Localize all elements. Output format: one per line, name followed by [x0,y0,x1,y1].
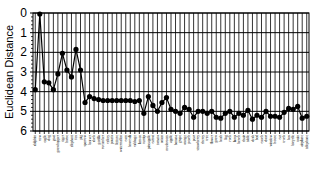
data-point [196,109,201,114]
data-point [205,111,210,116]
x-tick-label: pig [79,135,83,140]
x-tick-label: mushroom [165,135,169,151]
data-point [114,98,119,103]
x-tick-label: carrot [151,135,155,143]
x-tick-label: sparrow [83,135,87,147]
x-tick-label: celery [106,135,110,144]
x-tick-label: broccoli [128,135,132,147]
x-tick-label: bed [255,135,259,140]
x-tick-label: door [264,134,268,141]
x-tick-label: banana [174,135,178,146]
data-point [173,109,178,114]
x-tick-label: pineapple [147,135,151,149]
x-tick-label: couch [260,135,264,144]
data-point [46,80,51,85]
data-point [33,87,38,92]
x-tick-label: house [273,135,277,144]
x-tick-label: lamp [233,135,237,142]
data-point [241,113,246,118]
x-tick-label: cherry [201,135,205,144]
data-point [82,100,87,105]
data-point [132,99,137,104]
data-point [263,109,268,114]
data-point [214,115,219,120]
x-tick-label: onion [160,135,164,143]
x-tick-label: cow [38,135,42,141]
x-tick-label: horse [65,135,69,143]
data-point [218,116,223,121]
x-tick-label: window [269,135,273,147]
x-tick-label: beaver [88,134,92,144]
data-point [91,96,96,101]
data-point [73,47,78,52]
data-point [286,106,291,111]
data-point [119,98,124,103]
x-tick-label: strawberry [196,135,200,151]
data-point [150,103,155,108]
y-tick-label: 4 [20,85,27,99]
data-point [64,67,69,72]
x-tick-label: potato [110,135,114,144]
y-tick-label: 1 [20,26,27,40]
data-point [254,113,259,118]
data-point [110,98,115,103]
x-tick-label: pear [192,134,196,141]
x-tick-label: desk [251,135,255,142]
x-tick-label: telephone [305,135,309,149]
data-point [101,98,106,103]
data-point [268,114,273,119]
x-tick-label: grasshopper [56,134,60,152]
x-tick-label: train [296,135,300,142]
data-point [164,95,169,100]
x-tick-label: gorilla [97,135,101,145]
data-point [78,67,83,72]
x-tick-label: dolphin [33,135,37,146]
data-point [155,109,160,114]
x-tick-label: log [224,135,228,140]
x-tick-label: flower [210,134,214,144]
data-point [146,94,151,99]
data-point [42,79,47,84]
x-tick-label: airplane [300,135,304,147]
x-tick-label: apple [169,135,173,143]
x-tick-label: orange [183,135,187,145]
x-tick-label: corn [124,135,128,142]
data-point [227,109,232,114]
data-point [87,94,92,99]
x-tick-label: grass [214,134,218,142]
data-point [259,115,264,120]
x-tick-label: goat [52,135,56,141]
x-tick-label: bush [219,135,223,142]
x-tick-label: watermelon [119,135,123,152]
data-point [182,105,187,110]
x-tick-label: tomato [156,135,160,145]
x-tick-label: table [246,135,250,142]
data-point [236,111,241,116]
x-tick-label: grape [178,135,182,143]
euclidean-distance-chart: Euclidean Distance 0123456 dolphincoweag… [0,0,319,172]
x-tick-label: tree [205,135,209,141]
data-point [123,98,128,103]
x-tick-label: turnip [142,135,146,144]
data-point [300,116,305,121]
x-tick-label: bicycle [291,135,295,146]
x-tick-label: bench [237,135,241,144]
data-point [177,111,182,116]
x-tick-label: car [278,134,282,139]
data-point [60,51,65,56]
data-point [137,98,142,103]
x-tick-label: truck [282,135,286,143]
x-tick-label: cucumber [101,134,105,149]
y-tick-label: 2 [20,45,27,59]
y-tick-label: 5 [20,104,27,118]
data-point [232,115,237,120]
x-tick-label: dog [47,135,51,141]
data-point [200,109,205,114]
x-tick-label: lemon [138,135,142,144]
x-tick-label: chair [242,134,246,142]
y-tick-label: 6 [20,124,27,138]
y-tick-label: 3 [20,65,27,79]
data-point [128,98,133,103]
data-point [250,117,255,122]
data-point [291,107,296,112]
